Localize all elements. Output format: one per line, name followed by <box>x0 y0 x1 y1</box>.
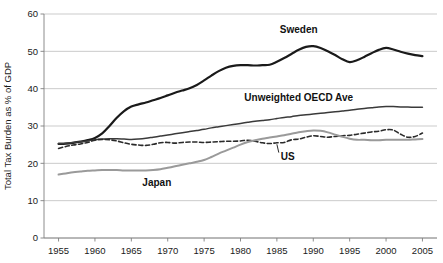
x-tick-label-1990: 1990 <box>303 245 324 256</box>
x-tick-label-1985: 1985 <box>266 245 287 256</box>
series-label-us: US <box>281 151 295 162</box>
tax-burden-line-chart: 0102030405060 19551960196519701975198019… <box>0 0 443 263</box>
x-tick-label-1955: 1955 <box>48 245 69 256</box>
series-line-sweden <box>59 46 423 144</box>
x-tick-label-1965: 1965 <box>121 245 142 256</box>
series-label-japan: Japan <box>142 177 171 188</box>
us-label-leader-line <box>277 144 279 152</box>
series-label-unweighted-oecd-ave: Unweighted OECD Ave <box>244 92 353 103</box>
y-tick-label-40: 40 <box>27 83 38 94</box>
gridlines-group <box>44 14 437 238</box>
x-tick-label-1960: 1960 <box>84 245 105 256</box>
y-tick-label-10: 10 <box>27 195 38 206</box>
x-tick-label-1995: 1995 <box>339 245 360 256</box>
chart-canvas: 0102030405060 19551960196519701975198019… <box>0 0 443 263</box>
series-line-japan <box>59 130 423 174</box>
axes-group <box>41 14 438 242</box>
y-tick-label-30: 30 <box>27 120 38 131</box>
series-line-unweighted-oecd-ave <box>59 107 423 144</box>
x-tick-labels: 1955196019651970197519801985199019952000… <box>48 245 433 256</box>
y-axis-title: Total Tax Burden as % of GDP <box>2 62 13 190</box>
y-tick-label-50: 50 <box>27 46 38 57</box>
y-tick-label-0: 0 <box>33 232 38 243</box>
y-tick-label-20: 20 <box>27 158 38 169</box>
y-tick-label-60: 60 <box>27 8 38 19</box>
x-tick-label-1970: 1970 <box>157 245 178 256</box>
y-tick-labels: 0102030405060 <box>27 8 38 243</box>
x-tick-label-2000: 2000 <box>375 245 396 256</box>
series-lines <box>59 46 423 174</box>
series-label-sweden: Sweden <box>280 24 318 35</box>
x-tick-label-2005: 2005 <box>412 245 433 256</box>
x-tick-label-1975: 1975 <box>194 245 215 256</box>
y-axis-title-group: Total Tax Burden as % of GDP <box>2 62 13 190</box>
x-tick-label-1980: 1980 <box>230 245 251 256</box>
